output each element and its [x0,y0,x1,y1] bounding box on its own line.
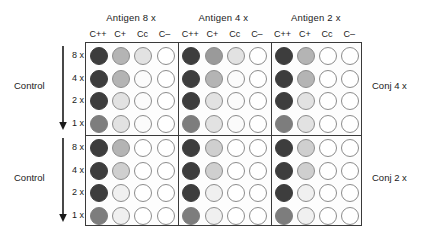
well [205,115,223,133]
well [90,92,108,110]
well [341,139,359,157]
well [90,139,108,157]
well [112,70,130,88]
well [341,92,359,110]
well [297,92,315,110]
panel-divider-vertical-1 [178,43,179,225]
well [157,70,175,88]
well [134,115,152,133]
well [182,115,200,133]
well [134,92,152,110]
well [90,184,108,202]
well [205,47,223,65]
well [182,70,200,88]
well [227,184,245,202]
conjugate-label-top: Conj 4 x [372,80,407,91]
well [227,92,245,110]
row-label-0-1: 4 x [62,73,84,83]
well [297,162,315,180]
well [157,162,175,180]
well [275,139,293,157]
well [182,139,200,157]
well [205,207,223,225]
well [90,47,108,65]
well [90,115,108,133]
well [112,184,130,202]
well [112,47,130,65]
well [112,207,130,225]
well [134,139,152,157]
well [341,184,359,202]
well [341,47,359,65]
well [319,162,337,180]
row-label-1-0: 8 x [62,142,84,152]
well [227,207,245,225]
well [275,70,293,88]
row-label-1-3: 1 x [62,210,84,220]
well [182,207,200,225]
well [319,47,337,65]
well [249,92,267,110]
well [112,139,130,157]
well [90,207,108,225]
well [319,207,337,225]
well [134,184,152,202]
panel-divider-horizontal-1 [86,135,361,136]
plate-frame [85,42,362,226]
column-header-2-3: C– [336,29,362,39]
well [341,70,359,88]
well [249,115,267,133]
well [249,207,267,225]
well [275,47,293,65]
well [182,92,200,110]
well [297,115,315,133]
well [134,162,152,180]
well [157,207,175,225]
well [157,92,175,110]
well [227,47,245,65]
well [134,70,152,88]
well [297,70,315,88]
figure-root: Antigen 8 x Antigen 4 x Antigen 2 x C++C… [0,0,440,242]
conjugate-label-bottom: Conj 2 x [372,172,407,183]
antigen-group-title-0: Antigen 8 x [85,12,177,23]
well [134,47,152,65]
column-header-0-3: C– [152,29,178,39]
well [157,47,175,65]
well [249,47,267,65]
well [205,139,223,157]
well [182,47,200,65]
well [297,139,315,157]
well [112,162,130,180]
row-label-0-2: 2 x [62,95,84,105]
antigen-group-title-1: Antigen 4 x [177,12,269,23]
well [297,207,315,225]
well [249,70,267,88]
well [249,184,267,202]
row-label-1-1: 4 x [62,165,84,175]
well [341,207,359,225]
well [205,162,223,180]
control-label-bottom: Control [14,172,45,183]
well [249,162,267,180]
well [134,207,152,225]
well [275,207,293,225]
well [227,70,245,88]
well [319,92,337,110]
well [157,184,175,202]
row-label-0-3: 1 x [62,118,84,128]
well [275,115,293,133]
control-label-top: Control [14,80,45,91]
well [90,70,108,88]
well [249,139,267,157]
well [205,184,223,202]
well [341,115,359,133]
column-header-1-3: C– [244,29,270,39]
well [182,162,200,180]
well [275,162,293,180]
well [319,70,337,88]
well [275,92,293,110]
well [227,115,245,133]
well [205,70,223,88]
well [319,184,337,202]
